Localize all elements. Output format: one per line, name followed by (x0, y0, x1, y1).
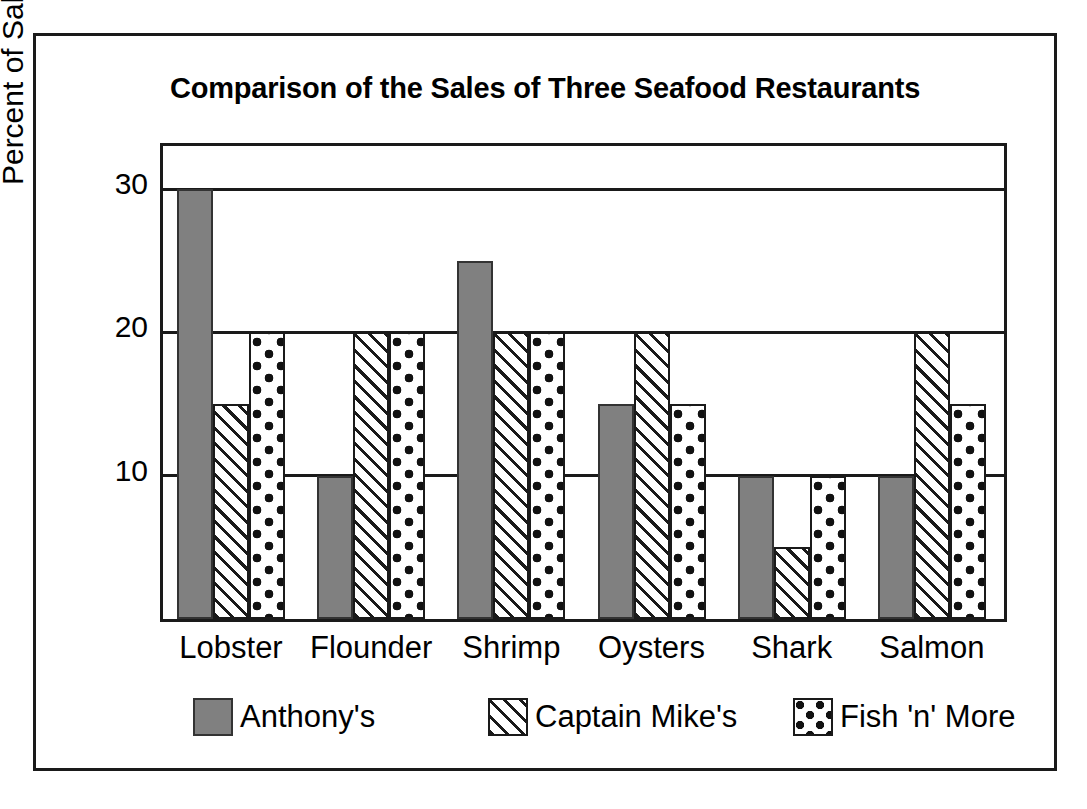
legend-swatch-dots-icon (793, 698, 833, 736)
bar-lobster-series-1 (213, 404, 249, 619)
bar-flounder-series-2 (389, 332, 425, 619)
legend-label-0: Anthony's (240, 699, 375, 735)
bar-shrimp-series-0 (457, 261, 493, 619)
bar-shrimp-series-1 (493, 332, 529, 619)
x-category-label-salmon: Salmon (832, 630, 1032, 666)
chart-figure: Comparison of the Sales of Three Seafood… (0, 0, 1087, 809)
y-tick-label-30: 30 (60, 167, 148, 201)
bar-oysters-series-2 (670, 404, 706, 619)
bar-oysters-series-0 (598, 404, 634, 619)
bar-lobster-series-2 (249, 332, 285, 619)
chart-title: Comparison of the Sales of Three Seafood… (33, 72, 1057, 105)
y-axis-title: Percent of Sales (0, 0, 30, 240)
bar-shark-series-0 (738, 476, 774, 619)
chart-legend: Anthony'sCaptain Mike'sFish 'n' More (33, 695, 1057, 745)
legend-label-2: Fish 'n' More (840, 699, 1016, 735)
bar-salmon-series-1 (914, 332, 950, 619)
gridline-30 (163, 188, 1004, 191)
bar-flounder-series-0 (317, 476, 353, 619)
legend-entry-2: Fish 'n' More (793, 695, 1016, 739)
bar-shark-series-2 (810, 476, 846, 619)
bar-salmon-series-2 (950, 404, 986, 619)
gridline-20 (163, 331, 1004, 334)
bar-shrimp-series-2 (529, 332, 565, 619)
legend-entry-0: Anthony's (193, 695, 375, 739)
plot-inner (163, 146, 1004, 619)
bar-salmon-series-0 (878, 476, 914, 619)
bar-flounder-series-1 (353, 332, 389, 619)
plot-area (160, 143, 1007, 622)
y-tick-label-10: 10 (60, 454, 148, 488)
bar-lobster-series-0 (177, 189, 213, 619)
legend-label-1: Captain Mike's (535, 699, 737, 735)
legend-swatch-hatch-icon (488, 698, 528, 736)
legend-swatch-solid-icon (193, 698, 233, 736)
bar-shark-series-1 (774, 547, 810, 619)
y-tick-label-20: 20 (60, 310, 148, 344)
legend-entry-1: Captain Mike's (488, 695, 737, 739)
bar-oysters-series-1 (634, 332, 670, 619)
